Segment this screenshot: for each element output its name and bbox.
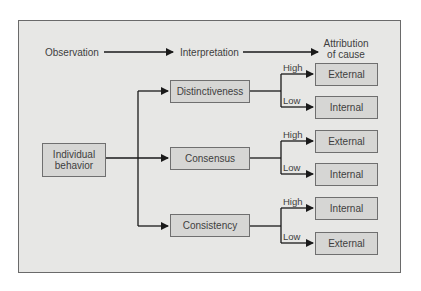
distinctiveness-box: Distinctiveness <box>170 80 250 103</box>
distinctiveness-high-label: High <box>283 62 303 73</box>
outcome-box-distinctiveness-high: External <box>315 63 378 86</box>
interpretation-label: Interpretation <box>180 47 239 58</box>
consensus-high-label: High <box>283 129 303 140</box>
observation-label: Observation <box>45 47 99 58</box>
individual-behavior-box: Individual behavior <box>42 143 106 177</box>
outcome-box-consistency-low: External <box>315 232 378 255</box>
consensus-low-label: Low <box>283 162 300 173</box>
outcome-box-consistency-high: Internal <box>315 197 378 220</box>
outcome-box-consensus-low: Internal <box>315 163 378 186</box>
attribution-line2: of cause <box>322 49 370 60</box>
distinctiveness-low-label: Low <box>283 95 300 106</box>
consistency-low-label: Low <box>283 231 300 242</box>
consistency-high-label: High <box>283 196 303 207</box>
consensus-box: Consensus <box>170 147 250 170</box>
source-line1: Individual <box>53 149 95 160</box>
source-line2: behavior <box>55 160 93 171</box>
outcome-box-consensus-high: External <box>315 130 378 153</box>
attribution-line1: Attribution <box>322 38 370 49</box>
outcome-box-distinctiveness-low: Internal <box>315 96 378 119</box>
attribution-label: Attribution of cause <box>322 38 370 60</box>
consistency-box: Consistency <box>170 214 250 237</box>
